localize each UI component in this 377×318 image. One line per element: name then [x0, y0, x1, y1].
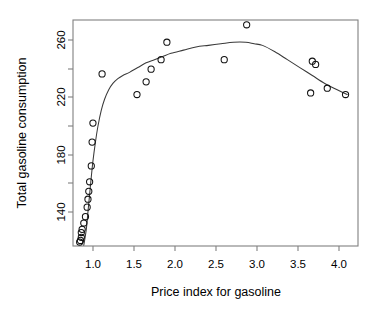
- data-point: [324, 85, 330, 91]
- y-tick-label-180: 180: [55, 145, 67, 164]
- data-point: [84, 204, 90, 210]
- data-point: [85, 196, 91, 202]
- x-tick-label-2.5: 2.5: [208, 258, 224, 270]
- y-axis-ticks: [68, 40, 73, 212]
- data-point: [86, 188, 92, 194]
- data-point: [244, 22, 250, 28]
- x-tick-label-4.0: 4.0: [331, 258, 347, 270]
- data-point: [143, 79, 149, 85]
- x-tick-label-1.5: 1.5: [126, 258, 142, 270]
- data-point: [221, 57, 227, 63]
- x-tick-label-2.0: 2.0: [167, 258, 183, 270]
- x-axis-ticks: [93, 246, 339, 251]
- data-point: [88, 163, 94, 169]
- y-tick-label-140: 140: [55, 202, 67, 221]
- data-point: [308, 90, 314, 96]
- data-point: [164, 39, 170, 45]
- y-axis-title: Total gasoline consumption: [15, 58, 29, 209]
- x-axis-tick-labels: 1.0 1.5 2.0 2.5 3.0 3.5 4.0: [85, 258, 347, 270]
- data-point: [148, 66, 154, 72]
- data-point: [90, 120, 96, 126]
- scatter-plot: 260 220 180 140 1.0 1.5 2.0 2.5 3.0 3.5 …: [0, 0, 377, 318]
- y-tick-label-260: 260: [55, 30, 67, 49]
- x-axis-title: Price index for gasoline: [151, 285, 281, 299]
- data-point: [87, 179, 93, 185]
- figure-container: 260 220 180 140 1.0 1.5 2.0 2.5 3.0 3.5 …: [0, 0, 377, 318]
- x-tick-label-3.0: 3.0: [249, 258, 265, 270]
- data-point: [89, 139, 95, 145]
- data-points-layer: [77, 22, 349, 245]
- y-tick-label-220: 220: [55, 87, 67, 106]
- y-axis-tick-labels: 260 220 180 140: [55, 30, 67, 221]
- plot-frame: [73, 20, 358, 246]
- data-point: [81, 220, 87, 226]
- data-point: [134, 91, 140, 97]
- fitted-curve: [84, 42, 347, 245]
- x-tick-label-1.0: 1.0: [85, 258, 101, 270]
- x-tick-label-3.5: 3.5: [290, 258, 306, 270]
- data-point: [99, 71, 105, 77]
